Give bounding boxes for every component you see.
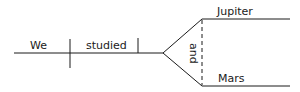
- object-word-upper: Jupiter: [216, 5, 253, 18]
- sentence-diagram: We studied and Jupiter Mars: [0, 0, 300, 92]
- object-word-lower: Mars: [218, 72, 245, 85]
- subject-word: We: [30, 39, 47, 52]
- verb-word: studied: [86, 39, 127, 52]
- conjunction-word: and: [187, 43, 200, 64]
